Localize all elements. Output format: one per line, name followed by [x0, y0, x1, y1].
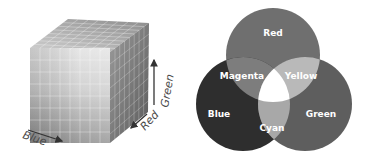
venn-label-blue: Blue: [208, 109, 230, 119]
venn-label-yellow: Yellow: [284, 71, 317, 81]
venn-label-red: Red: [263, 28, 282, 38]
rgb-cube: [30, 19, 149, 143]
figure-canvas: Blue Red Green Red Magenta Yellow Blue G…: [0, 0, 365, 162]
additive-color-venn: Red Magenta Yellow Blue Green Cyan: [196, 8, 352, 151]
venn-label-cyan: Cyan: [260, 123, 285, 133]
venn-label-magenta: Magenta: [220, 71, 264, 81]
green-axis-label: Green: [158, 73, 177, 108]
venn-label-green: Green: [306, 109, 336, 119]
